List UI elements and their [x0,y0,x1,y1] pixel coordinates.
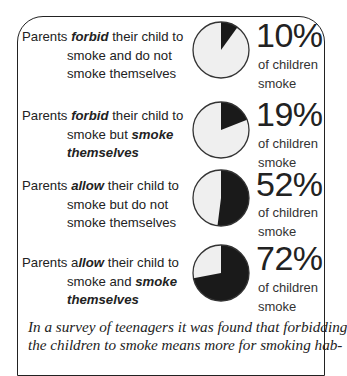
pie-chart-10 [191,20,251,80]
percent-label: 10% [256,18,323,52]
row-description: Parents forbid their child to smoke and … [22,28,186,84]
percent-caption: of childrensmoke [258,55,318,93]
percent-label: 19% [256,97,323,131]
emphasis: forbid [71,108,108,123]
survey-caption: In a survey of teenagers it was found th… [28,318,328,354]
percent-label: 72% [256,241,323,275]
pie-chart-19 [191,100,251,160]
percent-caption: of childrensmoke [258,203,318,241]
emphasis: allow [71,178,104,193]
percent-caption: of childrensmoke [258,278,318,316]
emphasis: llow [78,255,104,270]
row-description: Parents forbid their child to smoke but … [22,107,186,163]
pie-chart-72 [191,243,251,303]
row-description: Parents allow their child to smoke but d… [22,177,186,233]
percent-label: 52% [256,167,323,201]
pie-slice-smokers [217,170,249,226]
pie-chart-52 [191,168,251,228]
row-description: Parents allow their child to smoke and s… [22,254,186,310]
emphasis: forbid [71,29,108,44]
